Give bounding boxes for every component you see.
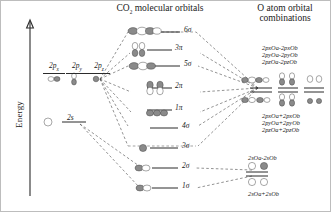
mo-label-1sigma: 1σ (182, 181, 189, 190)
orbital-icon-5sigma (129, 62, 155, 70)
mo-diagram-figure: Energy CO2 molecular orbitals O atom orb… (0, 0, 331, 212)
orbital-icon-2pz (93, 76, 99, 82)
orbital-icon-3sigma (139, 144, 146, 151)
right-header-line1: O atom orbital (240, 3, 330, 14)
oxygen-icons-antibonding (242, 73, 322, 85)
mo-label-1pi: 1π (175, 103, 183, 112)
atomic-label-2px: 2px (43, 62, 65, 74)
energy-axis-label: Energy (14, 101, 24, 128)
oxygen-comb-2pz-bond: 2pzOa+2pzOb (262, 126, 299, 133)
mo-label-6sigma: 6σ (184, 25, 191, 34)
diagram-canvas (0, 0, 331, 212)
oxygen-comb-2s-anti: 2sOa-2sOb (248, 154, 277, 161)
center-header: CO2 molecular orbitals (104, 3, 216, 17)
energy-axis (27, 20, 34, 196)
orbital-icon-3pi (132, 42, 145, 56)
mo-label-3sigma: 3σ (182, 141, 189, 150)
orbital-icon-2sigma (135, 165, 150, 171)
center-header-text: CO2 molecular orbitals (116, 3, 203, 13)
right-header-line2: combinations (240, 13, 330, 24)
oxygen-comb-2pz-anti: 2pzOa-2pzOb (262, 58, 297, 65)
mo-label-4sigma: 4σ (182, 121, 189, 130)
mo-label-2sigma: 2σ (182, 161, 189, 170)
orbital-icon-6sigma (128, 27, 161, 35)
orbital-icon-2s (44, 118, 52, 126)
orbital-icon-2py (72, 73, 77, 85)
oxygen-icons-bonding (242, 94, 322, 106)
atomic-label-2pz: 2pz (88, 62, 110, 74)
atomic-label-2s: 2s (67, 113, 74, 122)
oxygen-icons-s (248, 162, 267, 185)
mo-label-3pi: 3π (175, 43, 183, 52)
orbital-icon-1sigma (136, 185, 151, 191)
oxygen-comb-2s-bond: 2sOa+2sOb (248, 190, 279, 197)
mo-label-5sigma: 5σ (184, 59, 191, 68)
orbital-icon-2px (48, 77, 60, 82)
orbital-icon-1pi (146, 110, 167, 116)
mo-label-2pi: 2π (175, 81, 183, 90)
atomic-label-2py: 2py (66, 62, 88, 74)
